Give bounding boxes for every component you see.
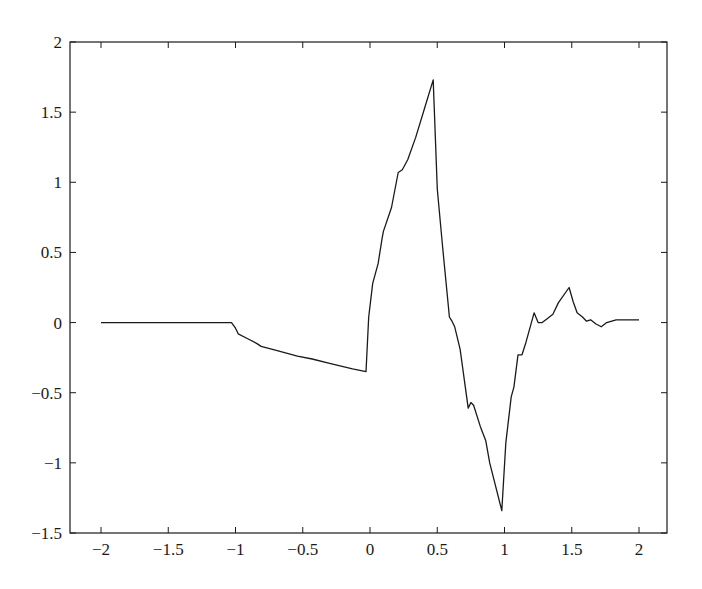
y-tick-label: −0.5 [31, 384, 62, 403]
y-tick-label: 2 [54, 33, 63, 52]
y-tick-label: 0 [54, 314, 63, 333]
x-tick-label: 1.5 [561, 540, 582, 559]
x-tick-label: −2 [92, 540, 110, 559]
y-tick-label: −1 [44, 454, 62, 473]
x-tick-label: 0 [366, 540, 375, 559]
y-axis-ticks: −1.5−1−0.500.511.52 [31, 33, 667, 543]
x-tick-label: −0.5 [287, 540, 318, 559]
y-tick-label: −1.5 [31, 524, 62, 543]
y-tick-label: 0.5 [41, 243, 62, 262]
line-chart: −2−1.5−1−0.500.511.52 −1.5−1−0.500.511.5… [0, 0, 702, 589]
x-tick-label: −1 [226, 540, 244, 559]
series-line-signal [101, 80, 639, 511]
plot-frame [70, 42, 667, 533]
x-tick-label: 0.5 [427, 540, 448, 559]
y-tick-label: 1.5 [41, 103, 62, 122]
y-tick-label: 1 [54, 173, 63, 192]
x-tick-label: −1.5 [153, 540, 184, 559]
x-tick-label: 2 [635, 540, 644, 559]
x-tick-label: 1 [500, 540, 509, 559]
data-series [101, 80, 639, 511]
